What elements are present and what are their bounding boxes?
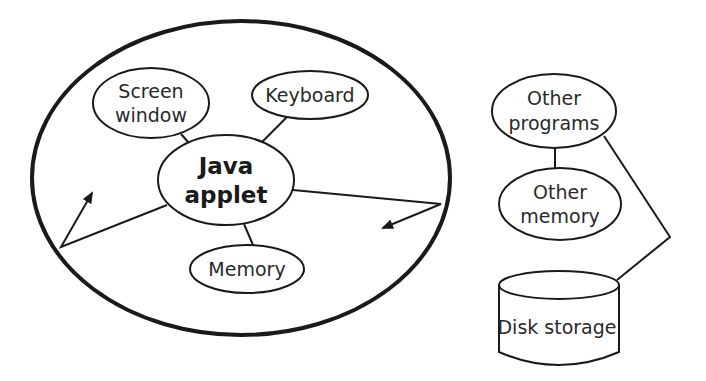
node-disk-storage: Disk storage: [497, 271, 619, 365]
node-screen-window: Screen window: [93, 68, 209, 138]
node-memory: Memory: [190, 245, 304, 293]
other-memory-line-2: memory: [520, 205, 599, 227]
blocked-arrow-right: [293, 190, 441, 228]
java-applet-line-2: applet: [185, 182, 268, 208]
screen-window-line-1: Screen: [118, 80, 183, 102]
blocked-arrow-left: [61, 193, 167, 247]
node-keyboard: Keyboard: [252, 71, 368, 119]
java-applet-sandbox-diagram: Screen window Keyboard Java applet Memor…: [0, 0, 706, 381]
node-other-programs: Other programs: [492, 74, 616, 148]
memory-label: Memory: [208, 258, 285, 280]
keyboard-label: Keyboard: [265, 84, 354, 106]
other-programs-line-2: programs: [508, 112, 599, 134]
other-memory-line-1: Other: [533, 181, 587, 203]
node-other-memory: Other memory: [499, 168, 621, 240]
node-java-applet: Java applet: [158, 135, 294, 225]
edge-applet-memory: [244, 224, 253, 245]
java-applet-line-1: Java: [197, 153, 254, 179]
other-programs-line-1: Other: [527, 87, 581, 109]
edge-applet-keyboard: [262, 117, 287, 142]
disk-storage-label: Disk storage: [497, 316, 616, 338]
disk-cylinder-top: [499, 271, 619, 299]
screen-window-line-2: window: [115, 104, 187, 126]
